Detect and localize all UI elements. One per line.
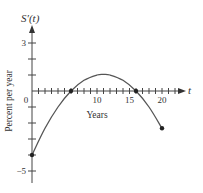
data-point-marker (30, 153, 34, 157)
x-axis-title: Years (86, 110, 108, 120)
data-point-marker (69, 89, 73, 93)
x-tick-label: 20 (158, 95, 168, 105)
x-axis: 0101520 (24, 88, 186, 105)
chart-svg: 3−5 0101520 S′(t) t Years Percent per ye… (0, 0, 203, 193)
y-tick-label: −5 (16, 166, 26, 176)
x-tick-label: 0 (24, 95, 29, 105)
y-axis-title: Percent per year (4, 69, 14, 132)
data-point-marker (134, 89, 138, 93)
y-axis-function-label: S′(t) (21, 12, 40, 25)
x-tick-label: 15 (125, 95, 135, 105)
y-tick-label: 3 (22, 38, 27, 48)
y-axis-arrow-icon (29, 25, 35, 33)
x-axis-arrow-icon (178, 88, 186, 94)
data-point-marker (160, 126, 164, 130)
x-tick-label: 10 (93, 95, 103, 105)
x-axis-variable-label: t (188, 84, 192, 96)
